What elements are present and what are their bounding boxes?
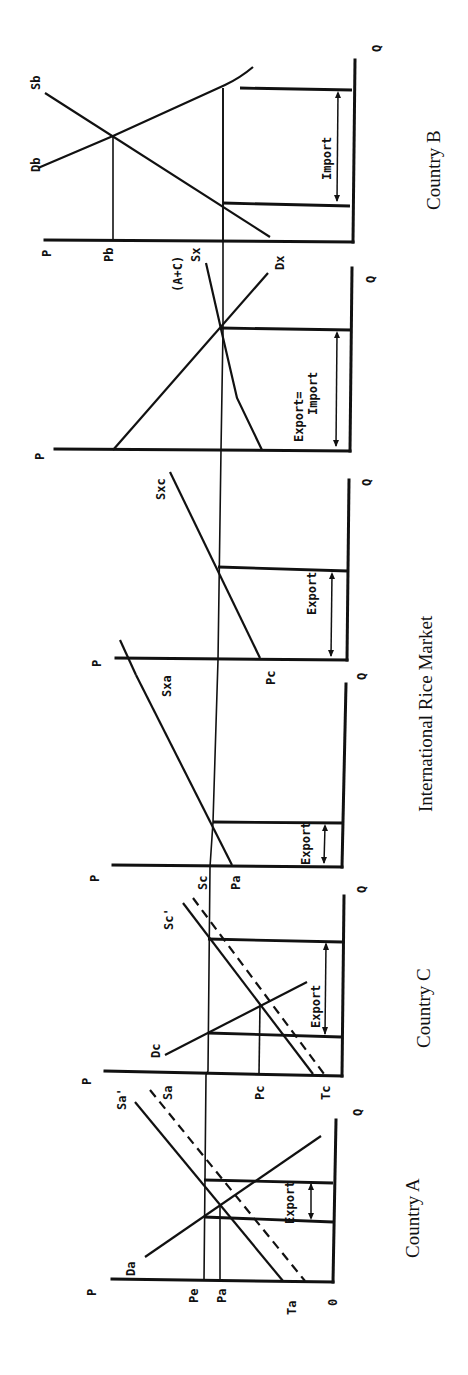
demand-db xyxy=(38,67,253,168)
export-import-bound xyxy=(221,328,351,330)
arrowhead xyxy=(321,857,327,864)
label-origin: 0 xyxy=(326,1299,340,1306)
rice-trade-diagram: P Pe Pa Ta 0 Q Da Sa' Sa Export Country … xyxy=(0,0,468,1375)
label-sc-prime: Sc' xyxy=(162,908,176,930)
label-sxc: Sxc xyxy=(154,478,168,500)
label-q: Q xyxy=(370,45,384,52)
demand-dc xyxy=(165,982,307,1055)
panel-export-supply-a: P Pa Q Export xyxy=(88,640,369,890)
q-axis xyxy=(350,268,352,451)
p-axis xyxy=(55,449,350,451)
p-axis xyxy=(112,1279,333,1282)
label-sxa: Sxa xyxy=(160,675,174,697)
export-arrow xyxy=(325,944,326,1034)
label-pe: Pe xyxy=(187,1289,201,1303)
caption-country-c: Country C xyxy=(413,968,434,1048)
export-bound-high xyxy=(208,939,342,942)
arrowhead xyxy=(308,1213,314,1220)
export-arrow xyxy=(331,574,332,656)
arrowhead xyxy=(329,572,335,579)
label-sc: Sc xyxy=(196,876,210,890)
label-export: Export xyxy=(299,822,313,865)
label-pc: Pc xyxy=(264,671,278,685)
label-p: P xyxy=(88,875,102,882)
export-bound-low xyxy=(208,1033,341,1037)
label-q: Q xyxy=(351,1109,365,1116)
export-bound xyxy=(213,822,343,823)
label-sx: Sx xyxy=(189,248,203,262)
label-pb: Pb xyxy=(102,248,116,262)
label-sb: Sb xyxy=(29,76,43,90)
supply-sxa xyxy=(136,675,232,865)
import-bound-high xyxy=(240,88,352,90)
label-export: Export xyxy=(283,1181,297,1224)
label-import: Import xyxy=(306,372,320,415)
label-dc: Dc xyxy=(149,1044,163,1058)
demand-dx xyxy=(113,273,268,450)
label-a-plus-c: (A+C) xyxy=(171,256,185,292)
panel-country-c: P Pc Tc Q Dc Sc' Sc Export Country C xyxy=(80,876,434,1100)
q-axis xyxy=(342,684,346,867)
supply-sa xyxy=(150,1090,305,1281)
caption-international-market: International Rice Market xyxy=(415,615,436,812)
label-export: Export xyxy=(309,985,323,1028)
p-axis xyxy=(45,240,353,242)
arrowhead xyxy=(322,824,328,831)
label-p: P xyxy=(80,1078,94,1085)
arrowhead xyxy=(333,440,339,447)
q-axis xyxy=(342,896,344,1076)
p-axis xyxy=(105,1071,342,1076)
label-sa: Sa xyxy=(161,1086,175,1100)
label-pa: Pa xyxy=(215,1289,229,1303)
caption-country-b: Country B xyxy=(423,130,444,210)
arrowhead xyxy=(308,1183,314,1190)
q-axis xyxy=(353,60,355,242)
arrowhead xyxy=(334,331,340,338)
panel-international-market: P Q (A+C) Sx Dx Export= Import xyxy=(33,248,378,460)
label-p: P xyxy=(85,1289,99,1296)
export-bound xyxy=(218,567,348,571)
arrowhead xyxy=(323,942,329,950)
label-sa-prime: Sa' xyxy=(115,1088,129,1110)
label-db: Db xyxy=(29,158,43,172)
supply-sa-prime xyxy=(135,1102,283,1281)
label-import: Import xyxy=(320,137,334,180)
q-axis xyxy=(333,1120,336,1282)
supply-sc-prime xyxy=(193,898,324,1074)
label-ta: Ta xyxy=(285,1301,299,1315)
label-export: Export xyxy=(305,572,319,615)
panel-export-supply-c: P Pc Q Sxc Sxa Export International Rice… xyxy=(90,472,436,812)
label-p: P xyxy=(40,250,54,257)
arrowhead xyxy=(328,650,334,657)
import-arrow xyxy=(337,93,338,201)
label-p: P xyxy=(33,453,47,460)
export-bound-low xyxy=(204,1217,333,1222)
panel-country-a: P Pe Pa Ta 0 Q Da Sa' Sa Export Country … xyxy=(85,1086,423,1315)
arrowhead xyxy=(334,195,340,202)
label-pa: Pa xyxy=(229,876,243,890)
label-da: Da xyxy=(124,1262,138,1276)
export-bound-high xyxy=(204,1180,333,1183)
label-tc: Tc xyxy=(319,1086,333,1100)
panel-country-b: P Pb Q Db Sb Import Country B xyxy=(29,45,444,262)
pc-guide xyxy=(259,1005,260,1074)
label-q: Q xyxy=(355,673,369,680)
label-q: Q xyxy=(355,886,369,893)
import-bound-low xyxy=(223,203,350,206)
label-pc: Pc xyxy=(253,1086,267,1100)
supply-sxc xyxy=(170,472,260,658)
caption-country-a: Country A xyxy=(402,1178,423,1258)
label-q: Q xyxy=(360,479,374,486)
label-export-eq: Export= xyxy=(292,391,306,442)
label-p: P xyxy=(90,660,104,667)
label-q: Q xyxy=(364,276,378,283)
arrowhead xyxy=(335,91,341,98)
label-dx: Dx xyxy=(273,256,287,270)
export-import-arrow xyxy=(336,333,337,446)
p-axis xyxy=(116,658,347,660)
